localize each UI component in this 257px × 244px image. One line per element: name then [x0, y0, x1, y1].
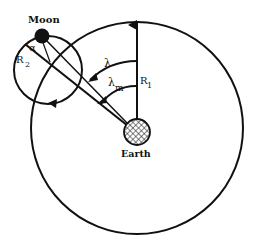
- r1-subscript: 1: [147, 81, 152, 90]
- lambda-label: λ: [104, 57, 111, 70]
- r2-label: R: [16, 54, 24, 65]
- moon-earth-line: [44, 38, 128, 124]
- earth-label: Earth: [121, 148, 151, 159]
- epicycle-direction-arrow-icon: [48, 99, 57, 108]
- moon-body: [35, 29, 50, 44]
- lambda-m-subscript: m: [115, 83, 124, 93]
- lambda-m-label: λ: [108, 76, 115, 89]
- epicycle-diagram: Moon Earth α R 2 R 1 λ λ m: [0, 0, 257, 244]
- earth-body: [124, 119, 150, 145]
- r2-subscript: 2: [25, 60, 30, 69]
- alpha-label: α: [29, 42, 36, 53]
- moon-label: Moon: [28, 14, 60, 25]
